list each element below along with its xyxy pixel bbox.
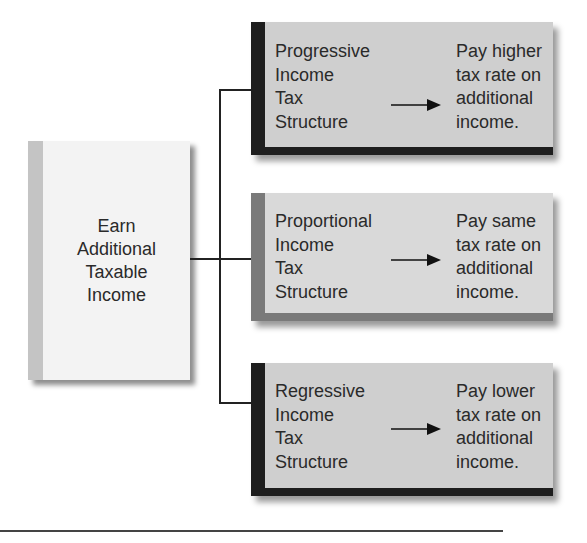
connector-branch-progressive xyxy=(219,89,251,91)
branch-label: Progressive Income Tax Structure xyxy=(275,40,370,134)
right-arrow-icon xyxy=(391,422,441,436)
branch-label: Regressive Income Tax Structure xyxy=(275,380,365,474)
branch-box-progressive: Progressive Income Tax Structure Pay hig… xyxy=(251,22,553,155)
branch-box-regressive: Regressive Income Tax Structure Pay lowe… xyxy=(251,363,553,496)
right-arrow-icon xyxy=(391,253,441,267)
source-box-text: Earn Additional Taxable Income xyxy=(77,215,156,307)
connector-branch-regressive xyxy=(219,402,251,404)
branch-label: Proportional Income Tax Structure xyxy=(275,210,372,304)
connector-branch-proportional xyxy=(219,258,251,260)
source-box-earn-income: Earn Additional Taxable Income xyxy=(28,141,190,380)
right-arrow-icon xyxy=(391,98,441,112)
connector-vertical-trunk xyxy=(219,89,221,403)
branch-result: Pay same tax rate on additional income. xyxy=(456,210,541,304)
bottom-divider xyxy=(0,530,503,532)
branch-box-proportional: Proportional Income Tax Structure Pay sa… xyxy=(251,193,553,321)
branch-result: Pay lower tax rate on additional income. xyxy=(456,380,541,474)
branch-result: Pay higher tax rate on additional income… xyxy=(456,40,542,134)
connector-horizontal-source xyxy=(190,258,220,260)
